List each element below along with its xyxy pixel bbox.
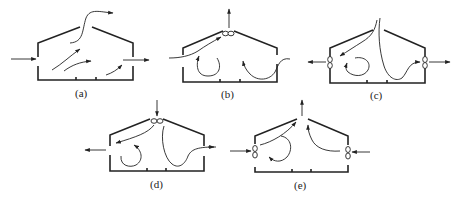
panel-label: (e) — [294, 179, 307, 192]
ridge-fan-icon — [228, 31, 234, 36]
airflow-arrow-icon — [106, 65, 122, 75]
recirculation-arrow-icon — [121, 145, 141, 166]
ridge-fan-icon — [157, 119, 163, 124]
airflow-arrow-icon — [243, 59, 290, 79]
airflow-arrow-icon — [340, 20, 377, 56]
panel-label: (b) — [221, 88, 234, 101]
panel-e: (e) — [230, 100, 370, 192]
airflow-arrow-icon — [52, 49, 80, 70]
house-outline — [38, 27, 133, 80]
wall-fan-icon — [328, 57, 333, 63]
wall-fan-icon — [253, 146, 258, 152]
panel-d: (d) — [85, 100, 216, 191]
panel-label: (a) — [75, 87, 88, 100]
house-outline — [183, 31, 277, 82]
panel-c: (c) — [308, 18, 450, 102]
airflow-arrow-icon — [260, 122, 296, 145]
wall-fan-icon — [346, 153, 351, 159]
airflow-arrow-icon — [308, 125, 340, 151]
panel-b: (b) — [169, 9, 290, 101]
panel-a: (a) — [11, 11, 149, 100]
wall-fan-icon — [423, 63, 428, 69]
house-outline — [255, 119, 348, 172]
ventilation-diagram: (a) (b) (c) — [0, 0, 457, 199]
wall-fan-icon — [423, 57, 428, 63]
house-outline — [110, 119, 204, 171]
airflow-arrow-icon — [162, 126, 214, 166]
recirculation-arrow-icon — [346, 58, 369, 76]
ridge-outflow-arrow-icon — [70, 11, 113, 43]
wall-fan-icon — [346, 147, 351, 153]
airflow-arrow-icon — [169, 37, 221, 58]
wall-fan-icon — [328, 63, 333, 69]
airflow-arrow-icon — [116, 125, 154, 143]
wall-fan-icon — [253, 152, 258, 158]
house-outline — [330, 30, 425, 83]
ridge-fan-icon — [151, 119, 157, 124]
panel-label: (c) — [370, 89, 383, 102]
panel-label: (d) — [150, 178, 163, 191]
recirculation-arrow-icon — [269, 136, 291, 161]
recirculation-arrow-icon — [197, 56, 219, 76]
airflow-arrow-icon — [64, 61, 91, 71]
airflow-arrow-icon — [379, 18, 420, 80]
